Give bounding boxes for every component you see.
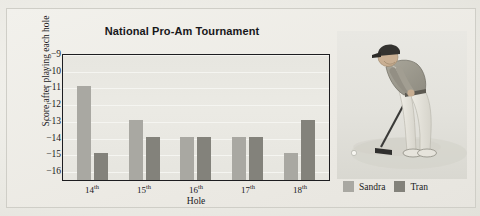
chart-legend: SandraTran — [343, 181, 428, 192]
bar-sandra-18th — [284, 153, 298, 180]
plot-area — [62, 54, 330, 181]
bar-tran-14th — [94, 153, 108, 180]
x-axis-tick-labels: 14th15th16th17th18th — [62, 183, 330, 197]
bar-group — [129, 55, 160, 180]
bar-tran-18th — [301, 120, 315, 180]
y-tick-label: −16 — [46, 166, 61, 176]
y-tick-label: −10 — [46, 66, 61, 76]
legend-label: Tran — [410, 182, 428, 192]
golfer-photograph — [337, 31, 467, 179]
x-tick-label: 18th — [285, 183, 316, 197]
y-tick-label: −12 — [46, 99, 61, 109]
bar-group — [180, 55, 211, 180]
x-tick-label: 14th — [77, 183, 108, 197]
bar-sandra-16th — [180, 137, 194, 180]
y-tick-label: −9 — [51, 49, 61, 59]
x-tick-label: 15th — [129, 183, 160, 197]
x-axis-label: Hole — [62, 196, 330, 206]
y-tick-label: −15 — [46, 149, 61, 159]
bar-tran-17th — [249, 137, 263, 180]
bar-group — [284, 55, 315, 180]
legend-swatch — [394, 181, 405, 192]
y-axis-tick-labels: −9−10−11−12−13−14−15−16 — [39, 54, 61, 181]
bar-sandra-15th — [129, 120, 143, 180]
legend-swatch — [343, 181, 354, 192]
bar-tran-16th — [197, 137, 211, 180]
golfer-illustration — [337, 31, 467, 179]
figure-panel: National Pro-Am Tournament Score after p… — [6, 8, 476, 208]
bar-group — [77, 55, 108, 180]
legend-label: Sandra — [359, 182, 385, 192]
y-tick-label: −11 — [46, 82, 61, 92]
bar-sandra-17th — [232, 137, 246, 180]
chart-title: National Pro-Am Tournament — [67, 25, 297, 37]
x-tick-label: 17th — [233, 183, 264, 197]
legend-item-tran: Tran — [394, 181, 428, 192]
y-tick-label: −14 — [46, 133, 61, 143]
bar-group — [232, 55, 263, 180]
bar-groups — [63, 55, 329, 180]
bar-sandra-14th — [77, 86, 91, 180]
y-tick-label: −13 — [46, 116, 61, 126]
bar-tran-15th — [146, 137, 160, 180]
x-tick-label: 16th — [181, 183, 212, 197]
legend-item-sandra: Sandra — [343, 181, 385, 192]
